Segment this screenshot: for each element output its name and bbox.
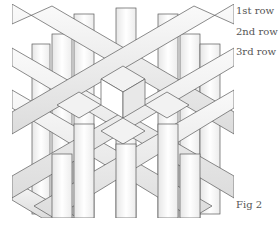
first-row-label: 1st row xyxy=(236,5,274,16)
second-row-label: 2nd row xyxy=(236,26,278,37)
third-row-label: 3rd row xyxy=(236,46,276,57)
weave-figure: 1st row 2nd row 3rd row Fig 2 xyxy=(0,0,280,225)
figure-caption: Fig 2 xyxy=(236,199,262,210)
triaxial-weave-illustration xyxy=(12,4,234,218)
